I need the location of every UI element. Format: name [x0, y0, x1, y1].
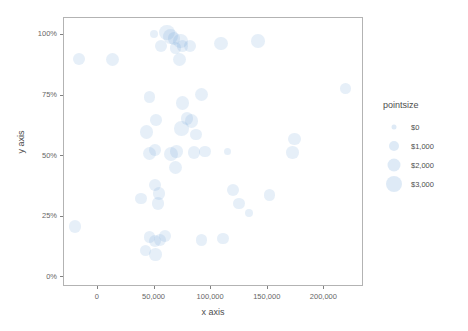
legend-label: $0: [411, 122, 419, 131]
data-point: [184, 40, 196, 52]
legend-entry: $3,000: [381, 174, 465, 193]
data-point: [73, 53, 85, 65]
y-tick-label: 100%: [0, 29, 57, 38]
legend-entry: $1,000: [381, 136, 465, 155]
data-point: [264, 189, 275, 200]
data-point: [150, 114, 162, 126]
y-tick-mark: [60, 95, 63, 96]
data-point: [140, 125, 153, 138]
legend-entries: $0$1,000$2,000$3,000: [381, 117, 465, 193]
legend-key: [381, 117, 407, 136]
data-point: [214, 37, 228, 51]
legend-key: [381, 155, 407, 174]
data-point: [150, 30, 158, 38]
data-point: [245, 209, 253, 217]
data-point: [340, 83, 351, 94]
data-point: [152, 197, 165, 210]
data-point: [196, 234, 208, 246]
data-point: [233, 198, 244, 209]
legend-label: $2,000: [411, 160, 434, 169]
y-axis-title: y axis: [16, 102, 26, 182]
legend-label: $1,000: [411, 141, 434, 150]
legend-entry: $0: [381, 117, 465, 136]
legend-label: $3,000: [411, 179, 434, 188]
legend-key: [381, 136, 407, 155]
y-tick-mark: [60, 216, 63, 217]
legend-title: pointsize: [381, 100, 465, 110]
x-tick-mark: [323, 286, 324, 289]
x-tick-mark: [97, 286, 98, 289]
legend-bubble-icon: [388, 158, 401, 171]
data-point: [149, 248, 162, 261]
x-tick-mark: [210, 286, 211, 289]
data-point: [190, 129, 202, 141]
y-tick-mark: [60, 276, 63, 277]
data-point: [227, 184, 239, 196]
data-point: [199, 146, 210, 157]
legend: pointsize $0$1,000$2,000$3,000: [381, 100, 465, 193]
data-point: [251, 34, 265, 48]
legend-key: [381, 174, 407, 193]
data-point: [143, 147, 156, 160]
legend-bubble-icon: [389, 141, 399, 151]
data-point: [106, 53, 119, 66]
data-point: [144, 91, 156, 103]
x-tick-mark: [154, 286, 155, 289]
data-point: [286, 146, 298, 158]
data-point: [195, 88, 208, 101]
data-point: [176, 96, 190, 110]
y-tick-mark: [60, 34, 63, 35]
y-tick-mark: [60, 155, 63, 156]
legend-bubble-icon: [392, 124, 397, 129]
y-tick-label: 75%: [0, 90, 57, 99]
x-axis-title: x axis: [63, 307, 363, 317]
y-tick-label: 50%: [0, 151, 57, 160]
data-point: [224, 148, 231, 155]
data-point: [159, 230, 171, 242]
plot-area: [63, 17, 363, 286]
data-point: [135, 193, 147, 205]
data-point: [173, 53, 186, 66]
y-tick-label: 0%: [0, 272, 57, 281]
bubble-chart: x axis y axis pointsize $0$1,000$2,000$3…: [0, 0, 468, 331]
legend-entry: $2,000: [381, 155, 465, 174]
data-point: [155, 40, 167, 52]
x-tick-mark: [267, 286, 268, 289]
data-point: [169, 161, 182, 174]
data-point: [69, 220, 81, 232]
y-tick-label: 25%: [0, 211, 57, 220]
legend-bubble-icon: [386, 176, 402, 192]
data-point: [174, 121, 189, 136]
data-point: [170, 145, 183, 158]
x-tick-label: 200,000: [283, 292, 363, 301]
data-point: [217, 233, 229, 245]
data-point: [288, 133, 300, 145]
